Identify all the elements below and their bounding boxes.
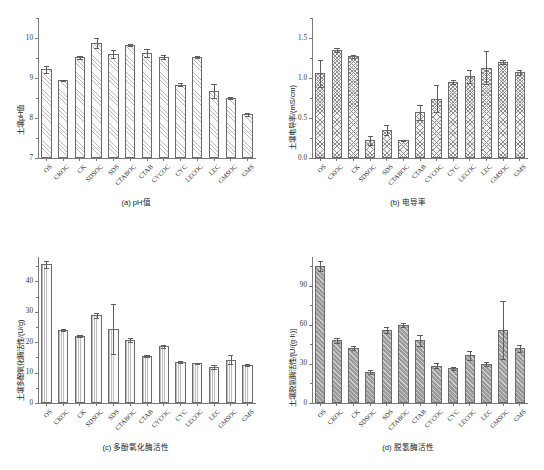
y-axis-tick-label: 0 — [280, 399, 307, 407]
x-axis-tick — [453, 158, 454, 161]
error-bar-cap — [195, 364, 200, 365]
y-axis-tick — [35, 373, 38, 374]
bar — [332, 50, 342, 158]
error-bar-cap — [161, 348, 166, 349]
bar — [142, 356, 152, 403]
y-axis-tick-label: 30 — [6, 307, 33, 315]
error-bar-cap — [351, 58, 356, 59]
bar — [125, 340, 135, 403]
y-axis-minor-tick — [310, 344, 312, 345]
y-axis-minor-tick — [36, 266, 38, 267]
bar — [159, 346, 169, 403]
error-bar-cap — [94, 48, 99, 49]
bar — [91, 43, 101, 158]
bar — [515, 348, 525, 403]
x-axis-tick — [486, 158, 487, 161]
error-bar-cap — [318, 271, 323, 272]
error-bar-cap — [211, 365, 216, 366]
error-bar — [46, 66, 47, 73]
y-axis-tick-label: 0.0 — [280, 154, 307, 162]
error-bar — [420, 105, 421, 119]
plot-area-b: 0.00.51.01.5OSCKOCCKSDSOCSDSCTABOCCTABCY… — [312, 18, 528, 158]
error-bar-cap — [77, 59, 82, 60]
error-bar-cap — [368, 370, 373, 371]
bar — [242, 114, 252, 158]
error-bar-cap — [417, 346, 422, 347]
x-axis-tick — [79, 403, 80, 406]
error-bar-cap — [178, 83, 183, 84]
error-bar — [503, 301, 504, 358]
y-axis-tick-label: 10 — [6, 34, 33, 42]
error-bar-cap — [368, 136, 373, 137]
error-bar — [320, 60, 321, 87]
error-bar-cap — [44, 261, 49, 262]
x-axis-tick — [247, 403, 248, 406]
y-axis-tick-label: 1.0 — [280, 74, 307, 82]
error-bar-cap — [128, 46, 133, 47]
x-axis-tick — [113, 158, 114, 161]
error-bar-cap — [44, 73, 49, 74]
error-bar — [46, 261, 47, 268]
y-axis-tick — [35, 78, 38, 79]
error-bar — [214, 84, 215, 98]
error-bar — [113, 50, 114, 57]
bar — [398, 140, 408, 158]
x-axis-tick — [353, 403, 354, 406]
error-bar-cap — [144, 57, 149, 58]
bar — [226, 360, 236, 403]
error-bar-cap — [434, 363, 439, 364]
y-axis-line — [312, 18, 313, 158]
error-bar-cap — [384, 333, 389, 334]
x-axis-tick — [386, 403, 387, 406]
x-axis-tick — [163, 158, 164, 161]
error-bar-cap — [368, 145, 373, 146]
error-bar-cap — [434, 112, 439, 113]
y-axis-tick — [35, 38, 38, 39]
bar — [398, 325, 408, 403]
x-axis-tick — [180, 403, 181, 406]
y-axis-tick — [309, 38, 312, 39]
error-bar-cap — [77, 335, 82, 336]
chart-panel-c: 土壤多酚氧化酶活性/(U/g) 010203040OSCKOCCKSDSOCSD… — [0, 235, 272, 470]
bar — [192, 363, 202, 403]
chart-panel-a: 土壤pH值 78910OSCKOCCKSDSOCSDSCTABOCCTABCYC… — [0, 0, 272, 235]
x-axis-tick — [486, 403, 487, 406]
error-bar-cap — [144, 357, 149, 358]
bar — [58, 80, 68, 158]
x-axis-tick — [353, 158, 354, 161]
y-axis-tick — [309, 286, 312, 287]
y-axis-tick — [309, 118, 312, 119]
bar — [332, 340, 342, 403]
error-bar — [470, 70, 471, 83]
plot-area-a: 78910OSCKOCCKSDSOCSDSCTABOCCTABCYCOCCYCL… — [38, 18, 256, 158]
y-axis-minor-tick — [36, 357, 38, 358]
error-bar-cap — [467, 70, 472, 71]
bar — [41, 264, 51, 403]
y-axis-tick-label: 9 — [6, 74, 33, 82]
y-axis-minor-tick — [310, 305, 312, 306]
error-bar-cap — [94, 318, 99, 319]
error-bar-cap — [467, 351, 472, 352]
x-axis-tick — [96, 158, 97, 161]
error-bar-cap — [144, 49, 149, 50]
error-bar-cap — [401, 327, 406, 328]
bar — [415, 340, 425, 403]
y-axis-line — [312, 257, 313, 403]
error-bar-cap — [401, 141, 406, 142]
plot-area-d: 0306090OSCKOCCKSDSOCSDSCTABOCCTABCYCOCCY… — [312, 257, 528, 403]
x-axis-tick — [163, 403, 164, 406]
error-bar-cap — [128, 342, 133, 343]
error-bar-cap — [351, 346, 356, 347]
x-axis-tick — [436, 158, 437, 161]
error-bar-cap — [228, 99, 233, 100]
y-axis-tick-label: 30 — [280, 359, 307, 367]
y-axis-minor-tick — [310, 266, 312, 267]
x-axis-tick — [63, 158, 64, 161]
bar — [175, 362, 185, 403]
x-axis-tick — [197, 403, 198, 406]
error-bar-cap — [161, 345, 166, 346]
bar — [175, 85, 185, 158]
error-bar — [113, 304, 114, 354]
error-bar-cap — [334, 48, 339, 49]
error-bar-cap — [334, 338, 339, 339]
